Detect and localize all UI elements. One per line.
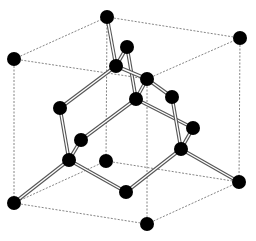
atom	[174, 142, 188, 156]
atom	[109, 59, 123, 73]
atom	[140, 72, 154, 86]
atom	[99, 154, 113, 168]
atom	[53, 101, 67, 115]
cell-edge	[106, 17, 107, 161]
cell-edge	[239, 38, 240, 182]
bond	[14, 160, 69, 203]
atom	[74, 133, 88, 147]
cell-edge	[147, 38, 240, 79]
cell-edge	[107, 17, 240, 38]
atom	[119, 185, 133, 199]
atom	[7, 52, 21, 66]
atom	[62, 153, 76, 167]
bond	[126, 149, 181, 192]
atom	[186, 121, 200, 135]
atom	[165, 90, 179, 104]
atom	[7, 196, 21, 210]
atoms	[7, 10, 247, 231]
atom	[120, 40, 134, 54]
cell-edge	[14, 203, 147, 224]
bond	[136, 99, 193, 128]
atom	[232, 175, 246, 189]
atom	[140, 217, 154, 231]
atom	[100, 10, 114, 24]
bond	[81, 99, 136, 140]
diamond-crystal-diagram	[0, 0, 256, 241]
cell-edge	[147, 182, 239, 224]
atom	[129, 92, 143, 106]
bond	[107, 17, 116, 66]
bond	[60, 108, 69, 160]
bond	[60, 66, 116, 108]
cell-edge	[14, 17, 107, 59]
atom	[233, 31, 247, 45]
